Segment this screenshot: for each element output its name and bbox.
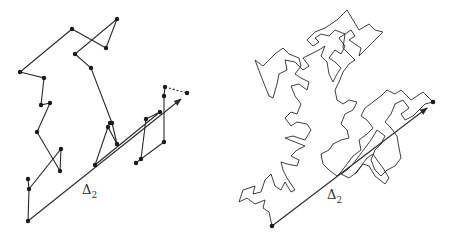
walk-vertex: [104, 46, 108, 50]
walk-vertex: [163, 85, 167, 89]
walk-vertex: [89, 66, 93, 70]
walk-vertex: [185, 91, 189, 95]
walk-segment: [28, 179, 29, 221]
delta-symbol: Δ: [327, 187, 336, 202]
walk-vertex: [134, 161, 138, 165]
delta-2-label: Δ2: [82, 182, 97, 200]
displacement-arrow: [272, 108, 427, 226]
walk-vertex: [115, 142, 119, 146]
walk-vertex: [106, 125, 110, 129]
delta-symbol: Δ: [82, 182, 91, 197]
coarse-random-walk-diagram: [0, 0, 225, 240]
walk-vertex: [42, 76, 46, 80]
delta-2-label: Δ2: [327, 187, 342, 205]
walk-vertex: [139, 157, 143, 161]
walk-vertex: [59, 147, 63, 151]
walk-vertex: [115, 17, 119, 21]
walk-vertex: [27, 187, 31, 191]
walk-vertex: [35, 130, 39, 134]
right-walk-panel: Δ2: [225, 0, 450, 240]
walk-vertex: [48, 101, 52, 105]
walk-vertex: [162, 94, 166, 98]
walk-vertex: [144, 117, 148, 121]
delta-subscript: 2: [336, 195, 342, 205]
walk-vertex: [162, 140, 166, 144]
dashed-step: [165, 87, 187, 93]
displacement-arrow: [28, 99, 181, 221]
end-point: [431, 100, 436, 105]
start-point: [270, 224, 275, 229]
walk-vertex: [39, 103, 43, 107]
walk-vertex: [73, 52, 77, 56]
walk-vertex: [108, 121, 112, 125]
walk-vertex: [70, 27, 74, 31]
walk-vertex: [93, 163, 97, 167]
walk-vertex: [58, 169, 62, 173]
walk-vertex: [26, 219, 30, 223]
walk-vertex: [18, 70, 22, 74]
walk-path: [20, 19, 187, 221]
walk-vertex: [158, 110, 162, 114]
walk-vertex: [26, 177, 30, 181]
delta-subscript: 2: [91, 190, 97, 200]
left-walk-panel: Δ2: [0, 0, 225, 240]
